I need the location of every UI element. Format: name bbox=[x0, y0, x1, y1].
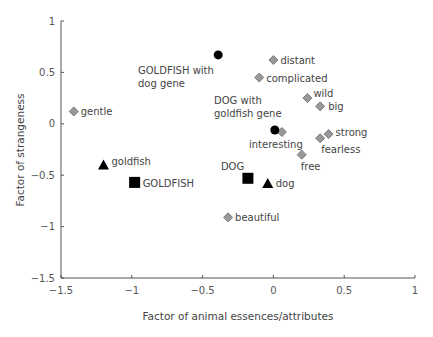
point-label-fearless: fearless bbox=[321, 144, 360, 155]
point-label-goldfish-with-dog-gene: GOLDFISH with bbox=[138, 65, 214, 76]
point-label-goldfish: goldfish bbox=[111, 156, 150, 167]
triangle-marker-dog bbox=[262, 178, 273, 188]
diamond-marker-complicated bbox=[255, 73, 264, 82]
y-tick-label: 0.5 bbox=[39, 67, 55, 78]
square-marker-dog bbox=[242, 173, 253, 184]
point-label-strong: strong bbox=[336, 127, 368, 138]
diamond-marker-fearless bbox=[316, 134, 325, 143]
point-label-big: big bbox=[328, 101, 343, 112]
diamond-marker-free bbox=[297, 150, 306, 159]
triangle-marker-goldfish bbox=[98, 159, 109, 169]
y-tick-label: 0 bbox=[49, 118, 55, 129]
point-label-free: free bbox=[301, 161, 321, 172]
y-tick-label: 1 bbox=[49, 16, 55, 27]
x-tick-label: 0 bbox=[270, 285, 276, 296]
circle-marker-dog-with-goldfish-gene bbox=[270, 125, 279, 134]
point-label-goldfish: GOLDFISH bbox=[143, 178, 194, 189]
point-label-distant: distant bbox=[280, 55, 315, 66]
x-tick-label: −1.5 bbox=[49, 285, 73, 296]
point-label-goldfish-with-dog-gene: dog gene bbox=[138, 78, 185, 89]
axes: −1.5−1−0.500.5110.50−0.5−1−1.5Factor of … bbox=[14, 16, 418, 323]
x-axis-title: Factor of animal essences/attributes bbox=[143, 310, 334, 322]
diamond-marker-wild bbox=[303, 94, 312, 103]
x-tick-label: 0.5 bbox=[336, 285, 352, 296]
point-label-interesting: interesting bbox=[249, 139, 303, 150]
point-label-dog-with-goldfish-gene: goldfish gene bbox=[214, 108, 282, 119]
square-marker-goldfish bbox=[129, 177, 140, 188]
diamond-marker-gentle bbox=[69, 107, 78, 116]
y-tick-label: −0.5 bbox=[31, 170, 55, 181]
circle-marker-goldfish-with-dog-gene bbox=[214, 50, 223, 59]
diamond-marker-distant bbox=[269, 56, 278, 65]
diamond-marker-beautiful bbox=[224, 213, 233, 222]
point-label-beautiful: beautiful bbox=[235, 212, 279, 223]
point-label-complicated: complicated bbox=[266, 73, 327, 84]
point-label-dog-with-goldfish-gene: DOG with bbox=[214, 95, 262, 106]
point-labels: distantcomplicatedwildbiggentleinteresti… bbox=[81, 55, 368, 223]
point-label-dog: dog bbox=[276, 178, 295, 189]
x-tick-label: −1 bbox=[124, 285, 139, 296]
y-tick-label: −1 bbox=[40, 221, 55, 232]
y-axis-title: Factor of strangeness bbox=[14, 93, 26, 206]
x-tick-label: 1 bbox=[412, 285, 418, 296]
point-label-wild: wild bbox=[313, 88, 333, 99]
point-label-dog: DOG bbox=[221, 161, 244, 172]
diamond-marker-strong bbox=[324, 130, 333, 139]
y-tick-label: −1.5 bbox=[31, 273, 55, 284]
scatter-chart: −1.5−1−0.500.5110.50−0.5−1−1.5Factor of … bbox=[0, 0, 433, 337]
point-label-gentle: gentle bbox=[81, 106, 113, 117]
diamond-marker-big bbox=[316, 102, 325, 111]
x-tick-label: −0.5 bbox=[190, 285, 214, 296]
